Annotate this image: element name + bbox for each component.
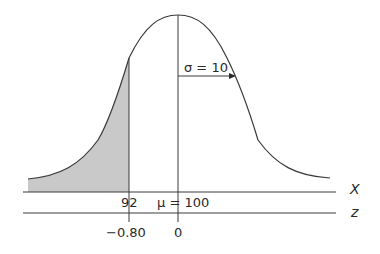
mean-label: μ = 100: [157, 196, 209, 209]
x-value-label: 92: [121, 196, 138, 209]
normal-distribution-figure: σ = 10 92 μ = 100 −0.80 0 X z: [0, 0, 380, 254]
x-axis-label: X: [350, 182, 360, 196]
z-axis-label: z: [351, 205, 358, 219]
sigma-label: σ = 10: [184, 61, 228, 74]
z-value-label: −0.80: [106, 226, 146, 239]
z-mean-label: 0: [174, 226, 182, 239]
shaded-tail-area: [28, 58, 129, 192]
distribution-plot: [0, 0, 380, 254]
normal-curve: [28, 15, 330, 179]
